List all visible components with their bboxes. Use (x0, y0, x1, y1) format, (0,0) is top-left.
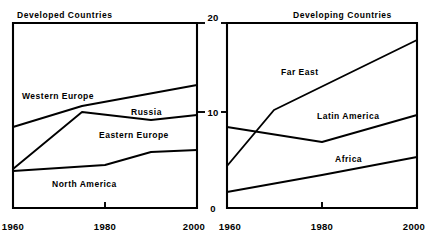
label-russia: Russia (131, 107, 162, 117)
label-western-europe: Western Europe (22, 91, 94, 101)
left-xlabel-1980: 1980 (94, 221, 116, 232)
chart-figure: Developed Countries Western Europe Russi… (0, 0, 431, 241)
series-africa (227, 157, 417, 192)
ylabel-10: 10 (207, 107, 218, 118)
right-xlabel-1980: 1980 (311, 221, 333, 232)
left-xlabel-1960: 1960 (2, 221, 24, 232)
left-xlabel-2000: 2000 (183, 221, 205, 232)
series-north-america (13, 150, 197, 171)
label-north-america: North America (52, 179, 117, 189)
right-panel: Developing Countries Far East Latin Amer… (219, 10, 425, 232)
right-xlabel-1960: 1960 (219, 221, 241, 232)
ylabel-20: 20 (207, 12, 218, 23)
shared-y-axis: 20 10 0 (197, 12, 227, 214)
label-eastern-europe: Eastern Europe (99, 130, 169, 140)
series-far-east (227, 40, 417, 166)
left-panel: Developed Countries Western Europe Russi… (2, 10, 205, 232)
dual-line-chart: Developed Countries Western Europe Russi… (0, 0, 431, 241)
ylabel-0: 0 (210, 203, 216, 214)
left-panel-title: Developed Countries (17, 10, 112, 20)
label-far-east: Far East (281, 67, 319, 77)
series-eastern-europe (13, 112, 197, 169)
right-xlabel-2000: 2000 (403, 221, 425, 232)
label-africa: Africa (335, 154, 362, 164)
label-latin-america: Latin America (317, 111, 379, 121)
right-panel-title: Developing Countries (293, 10, 392, 20)
